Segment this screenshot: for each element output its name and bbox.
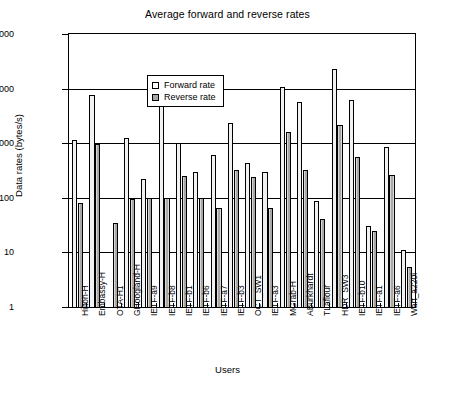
bar-forward bbox=[72, 140, 77, 307]
bar-forward bbox=[314, 201, 319, 307]
bar-group bbox=[69, 34, 86, 307]
bar-group bbox=[363, 34, 380, 307]
bar-forward bbox=[89, 95, 94, 308]
legend-item-reverse: Reverse rate bbox=[152, 91, 216, 103]
bar-forward bbox=[124, 138, 129, 307]
bar-forward bbox=[159, 90, 164, 307]
legend-swatch-reverse-icon bbox=[152, 94, 159, 101]
y-tick-label: 1000 bbox=[0, 138, 14, 148]
legend-label-reverse: Reverse rate bbox=[164, 92, 216, 102]
bar-forward bbox=[211, 155, 216, 307]
bar-forward bbox=[228, 123, 233, 307]
plot-area: Forward rate Reverse rate bbox=[68, 33, 416, 308]
bar-series-container bbox=[69, 34, 415, 307]
x-tick-label: IETF-a3 bbox=[270, 285, 280, 316]
x-tick-label: Hilton-H bbox=[80, 285, 90, 316]
bar-forward bbox=[141, 179, 146, 307]
bar-group bbox=[294, 34, 311, 307]
x-tick-label: OCT_SW1 bbox=[253, 275, 263, 316]
bar-forward bbox=[332, 69, 337, 307]
legend-swatch-forward-icon bbox=[152, 82, 159, 89]
bar-group bbox=[277, 34, 294, 307]
y-tick-label: 100 bbox=[0, 193, 14, 203]
bar-group bbox=[329, 34, 346, 307]
bar-group bbox=[398, 34, 415, 307]
x-tick-label: HDR_SW3 bbox=[340, 274, 350, 316]
y-tick-label: 100000 bbox=[0, 29, 14, 39]
bar-group bbox=[380, 34, 397, 307]
bar-group bbox=[86, 34, 103, 307]
bar-group bbox=[259, 34, 276, 307]
x-tick-label: Embassy-H bbox=[97, 272, 107, 316]
x-tick-label: ABurkhardt bbox=[305, 273, 315, 316]
chart-legend: Forward rate Reverse rate bbox=[147, 75, 224, 107]
y-axis-title: Data rates (bytes/s) bbox=[13, 81, 24, 231]
bar-group bbox=[311, 34, 328, 307]
legend-label-forward: Forward rate bbox=[164, 80, 215, 90]
x-tick-label: IETF-a9 bbox=[149, 285, 159, 316]
x-tick-label: MGrab-H bbox=[288, 281, 298, 316]
y-axis: Data rates (bytes/s) 1000001000010001001… bbox=[0, 0, 68, 397]
bar-group bbox=[242, 34, 259, 307]
bar-group bbox=[225, 34, 242, 307]
x-tick-label: IETF-b3 bbox=[236, 285, 246, 316]
bar-group bbox=[346, 34, 363, 307]
bar-forward bbox=[262, 172, 267, 307]
x-tick-label: OTA-H1 bbox=[115, 285, 125, 316]
y-tick-label: 10 bbox=[4, 247, 14, 257]
x-tick-label: GHoogland-H bbox=[132, 264, 142, 316]
bar-forward bbox=[297, 102, 302, 307]
y-tick-label: 1 bbox=[9, 302, 14, 312]
x-tick-label: TLaflour bbox=[322, 285, 332, 316]
x-tick-label: IETF-b8 bbox=[167, 285, 177, 316]
bar-forward bbox=[384, 147, 389, 307]
x-axis-title: Users bbox=[0, 364, 455, 375]
bar-forward bbox=[280, 87, 285, 307]
x-tick-label: Wart_a220i bbox=[409, 273, 419, 316]
x-tick-label: IETF-b6 bbox=[201, 285, 211, 316]
chart-title: Average forward and reverse rates bbox=[0, 8, 455, 20]
x-tick-label: IETF-a7 bbox=[219, 285, 229, 316]
legend-item-forward: Forward rate bbox=[152, 79, 216, 91]
x-tick-label: IETF-a1 bbox=[374, 285, 384, 316]
y-tick-label: 10000 bbox=[0, 84, 14, 94]
bar-forward bbox=[176, 143, 181, 307]
x-tick-label: IETF-a6 bbox=[392, 285, 402, 316]
chart-figure: Average forward and reverse rates Data r… bbox=[0, 0, 455, 397]
bar-group bbox=[104, 34, 121, 307]
x-tick-label: IETF-b1 bbox=[184, 285, 194, 316]
x-tick-label: IETF-b10 bbox=[357, 281, 367, 316]
